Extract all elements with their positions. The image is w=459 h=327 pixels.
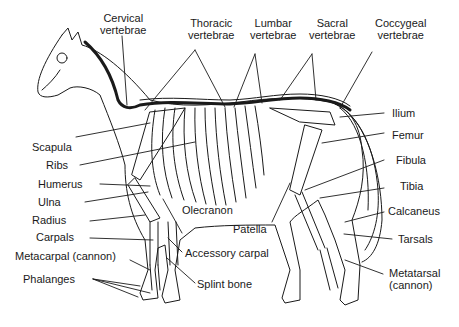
label-tarsals: Tarsals bbox=[398, 233, 433, 245]
label-ilium: Ilium bbox=[392, 107, 415, 119]
label-radius: Radius bbox=[32, 214, 66, 226]
label-thoracic-vertebrae: Thoracicvertebrae bbox=[188, 17, 234, 41]
label-accessory-carpal: Accessory carpal bbox=[185, 247, 269, 259]
label-metacarpal-cannon: Metacarpal (cannon) bbox=[15, 250, 116, 262]
label-phalanges: Phalanges bbox=[23, 273, 75, 285]
label-calcaneus: Calcaneus bbox=[388, 205, 440, 217]
label-olecranon: Olecranon bbox=[182, 204, 233, 216]
label-fibula: Fibula bbox=[396, 154, 426, 166]
label-splint-bone: Splint bone bbox=[197, 278, 252, 290]
label-humerus: Humerus bbox=[38, 178, 83, 190]
label-ulna: Ulna bbox=[38, 196, 61, 208]
ribcage bbox=[152, 106, 264, 205]
hindlimb-bones bbox=[270, 108, 338, 290]
label-lumbar-vertebrae: Lumbarvertebrae bbox=[250, 17, 296, 41]
label-tibia: Tibia bbox=[400, 180, 423, 192]
label-cervical-vertebrae: Cervicalvertebrae bbox=[100, 12, 146, 36]
label-metatarsal-cannon: Metatarsal(cannon) bbox=[389, 267, 440, 291]
label-patella: Patella bbox=[233, 223, 267, 235]
label-coccygeal-vertebrae: Coccygealvertebrae bbox=[375, 17, 426, 41]
label-ribs: Ribs bbox=[46, 159, 68, 171]
label-scapula: Scapula bbox=[32, 141, 72, 153]
label-sacral-vertebrae: Sacralvertebrae bbox=[309, 17, 355, 41]
label-femur: Femur bbox=[392, 129, 424, 141]
label-carpals: Carpals bbox=[36, 231, 74, 243]
